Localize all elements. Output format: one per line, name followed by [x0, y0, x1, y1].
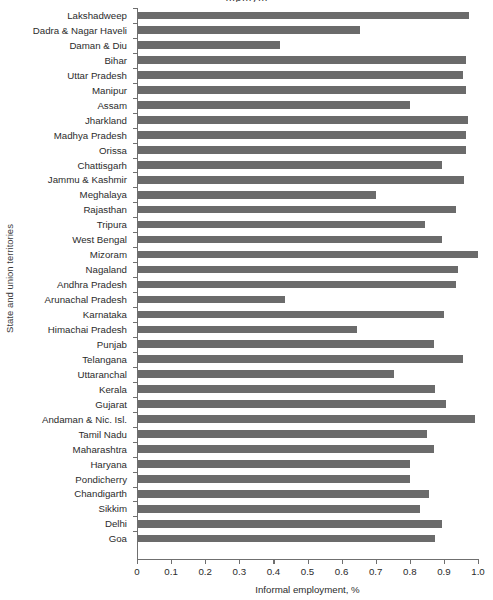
bar-track — [137, 307, 493, 322]
x-axis-tick — [478, 559, 479, 564]
bar — [137, 475, 410, 483]
bar-track — [137, 158, 493, 173]
bar-row: Haryana — [0, 457, 493, 472]
plot-area: LakshadweepDadra & Nagar HaveliDaman & D… — [0, 8, 493, 558]
bar — [137, 340, 434, 348]
bar — [137, 161, 442, 169]
bar-row: Orissa — [0, 143, 493, 158]
bar-track — [137, 457, 493, 472]
bar-track — [137, 397, 493, 412]
bar-row: Gujarat — [0, 397, 493, 412]
bar-track — [137, 83, 493, 98]
bar — [137, 385, 435, 393]
category-label: Nagaland — [0, 264, 133, 275]
category-label: Bihar — [0, 55, 133, 66]
bar-track — [137, 143, 493, 158]
bar-track — [137, 187, 493, 202]
bar-row: Tripura — [0, 217, 493, 232]
category-label: Sikkim — [0, 503, 133, 514]
category-label: Gujarat — [0, 399, 133, 410]
bar-row: Telangana — [0, 352, 493, 367]
bar-track — [137, 98, 493, 113]
bar — [137, 370, 394, 378]
x-axis-tick — [239, 559, 240, 564]
bar — [137, 251, 478, 259]
category-label: Orissa — [0, 145, 133, 156]
bar-row: Punjab — [0, 337, 493, 352]
bar-row: Mizoram — [0, 247, 493, 262]
category-label: Maharashtra — [0, 444, 133, 455]
bar-row: Daman & Diu — [0, 38, 493, 53]
category-label: Arunachal Pradesh — [0, 294, 133, 305]
bar-row: Tamil Nadu — [0, 427, 493, 442]
bar — [137, 311, 444, 319]
bar — [137, 266, 458, 274]
bar-track — [137, 292, 493, 307]
category-label: Punjab — [0, 339, 133, 350]
x-axis-title: Informal employment, % — [137, 584, 478, 595]
bar — [137, 131, 466, 139]
bar-track — [137, 367, 493, 382]
bar-row: West Bengal — [0, 232, 493, 247]
x-axis-tick — [205, 559, 206, 564]
category-label: Jammu & Kashmir — [0, 174, 133, 185]
bar-track — [137, 501, 493, 516]
bar-track — [137, 472, 493, 487]
x-axis-tick-label: 0.3 — [233, 566, 246, 577]
x-axis-tick — [376, 559, 377, 564]
x-axis-tick-label: 0 — [134, 566, 139, 577]
bar-track — [137, 128, 493, 143]
bar — [137, 490, 429, 498]
bar-row: Assam — [0, 98, 493, 113]
bar-row: Pondicherry — [0, 472, 493, 487]
category-label: Mizoram — [0, 249, 133, 260]
bar-row: Andaman & Nic. Isl. — [0, 412, 493, 427]
category-label: Dadra & Nagar Haveli — [0, 25, 133, 36]
category-label: West Bengal — [0, 234, 133, 245]
bar — [137, 400, 446, 408]
bar — [137, 296, 285, 304]
x-axis-tick-label: 1.0 — [471, 566, 484, 577]
bar-row: Himachai Pradesh — [0, 322, 493, 337]
bar-row: Maharashtra — [0, 442, 493, 457]
bar-track — [137, 113, 493, 128]
x-axis-tick-label: 0.6 — [335, 566, 348, 577]
bar — [137, 206, 456, 214]
bar-row: Uttar Pradesh — [0, 68, 493, 83]
bar — [137, 520, 442, 528]
bar — [137, 460, 410, 468]
bar — [137, 71, 463, 79]
bar — [137, 41, 280, 49]
bar-row: Arunachal Pradesh — [0, 292, 493, 307]
category-label: Meghalaya — [0, 189, 133, 200]
x-axis-tick-label: 0.2 — [198, 566, 211, 577]
bar-row: Chandigarth — [0, 487, 493, 502]
bar — [137, 56, 466, 64]
bar-row: Chattisgarh — [0, 158, 493, 173]
bar-track — [137, 232, 493, 247]
x-axis-tick — [410, 559, 411, 564]
bar — [137, 326, 357, 334]
bar-track — [137, 337, 493, 352]
category-label: Telangana — [0, 354, 133, 365]
bar — [137, 176, 464, 184]
x-axis-tick-label: 0.8 — [403, 566, 416, 577]
category-label: Jharkland — [0, 115, 133, 126]
x-axis-tick — [308, 559, 309, 564]
bar-row: Meghalaya — [0, 187, 493, 202]
bar-track — [137, 322, 493, 337]
bar — [137, 415, 475, 423]
bar-row: Kerala — [0, 382, 493, 397]
x-axis-tick-label: 0.5 — [301, 566, 314, 577]
bar-track — [137, 516, 493, 531]
bar — [137, 26, 360, 34]
x-axis-tick — [273, 559, 274, 564]
bar-track — [137, 23, 493, 38]
bar-row: Goa — [0, 531, 493, 546]
bar-row: Dadra & Nagar Haveli — [0, 23, 493, 38]
bar-row: Manipur — [0, 83, 493, 98]
category-label: Tripura — [0, 219, 133, 230]
bar — [137, 221, 425, 229]
category-label: Andhra Pradesh — [0, 279, 133, 290]
bar — [137, 430, 427, 438]
